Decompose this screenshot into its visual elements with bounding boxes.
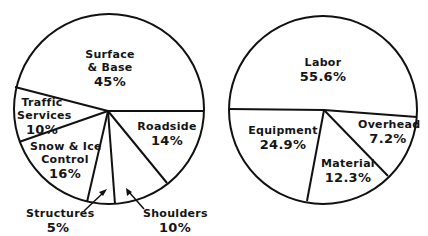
slice-label-traffic-services: Traffic Services 10% [17,96,67,137]
slice-label-roadside: Roadside 14% [137,120,197,148]
slice-label-shoulders: Shoulders 10% [143,207,207,235]
divider-labor-equipment [229,109,324,110]
slice-label-surface-base: Surface & Base 45% [80,48,140,89]
slice-label-structures: Structures 5% [26,207,90,235]
slice-label-snow-ice-control: Snow & Ice Control 16% [30,140,100,181]
slice-label-equipment: Equipment 24.9% [248,124,318,152]
slice-label-material: Material 12.3% [318,157,378,185]
slice-label-overhead: Overhead 7.2% [358,118,418,146]
slice-label-labor: Labor 55.6% [293,56,353,84]
